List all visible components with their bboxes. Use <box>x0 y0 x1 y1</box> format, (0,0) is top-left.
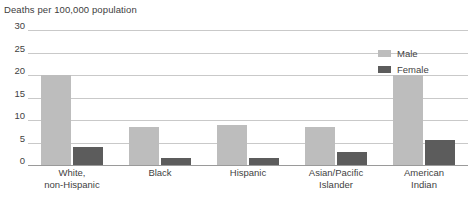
legend-label: Male <box>397 48 418 59</box>
bar-female-4 <box>425 140 455 165</box>
x-tick-label-line: White, <box>28 167 116 179</box>
x-tick-label-0: White,non-Hispanic <box>28 167 116 191</box>
bar-female-1 <box>161 158 191 165</box>
legend-label: Female <box>397 64 429 75</box>
bar-male-4 <box>393 75 423 165</box>
bar-female-2 <box>249 158 279 165</box>
x-tick-label-3: Asian/PacificIslander <box>292 167 380 191</box>
x-tick-label-line: Indian <box>380 179 468 191</box>
x-tick-label-4: AmericanIndian <box>380 167 468 191</box>
bar-male-1 <box>129 127 159 165</box>
y-tick-label-10: 10 <box>3 111 25 121</box>
x-tick-label-2: Hispanic <box>204 167 292 179</box>
x-tick-label-line: American <box>380 167 468 179</box>
bar-male-2 <box>217 125 247 166</box>
legend-swatch-icon <box>378 66 391 73</box>
x-tick-label-line: non-Hispanic <box>28 179 116 191</box>
y-tick-label-5: 5 <box>3 134 25 144</box>
bar-male-0 <box>41 75 71 165</box>
bar-chart: Deaths per 100,000 population 0510152025… <box>0 0 471 206</box>
x-tick-label-1: Black <box>116 167 204 179</box>
y-tick-label-0: 0 <box>3 156 25 166</box>
legend-swatch-icon <box>378 50 391 57</box>
x-tick-label-line: Asian/Pacific <box>292 167 380 179</box>
chart-legend: MaleFemale <box>378 46 468 78</box>
bar-male-3 <box>305 127 335 165</box>
legend-item-male[interactable]: Male <box>378 46 468 60</box>
bar-female-0 <box>73 147 103 165</box>
y-tick-label-20: 20 <box>3 66 25 76</box>
x-axis: White,non-HispanicBlackHispanicAsian/Pac… <box>28 167 468 205</box>
legend-item-female[interactable]: Female <box>378 62 468 76</box>
gridline-0 <box>28 165 468 166</box>
y-tick-label-25: 25 <box>3 44 25 54</box>
x-tick-label-line: Black <box>116 167 204 179</box>
x-tick-label-line: Hispanic <box>204 167 292 179</box>
y-axis: 051015202530 <box>0 30 25 165</box>
chart-title: Deaths per 100,000 population <box>4 4 137 15</box>
bar-female-3 <box>337 152 367 166</box>
y-tick-label-30: 30 <box>3 21 25 31</box>
y-tick-label-15: 15 <box>3 89 25 99</box>
x-tick-label-line: Islander <box>292 179 380 191</box>
